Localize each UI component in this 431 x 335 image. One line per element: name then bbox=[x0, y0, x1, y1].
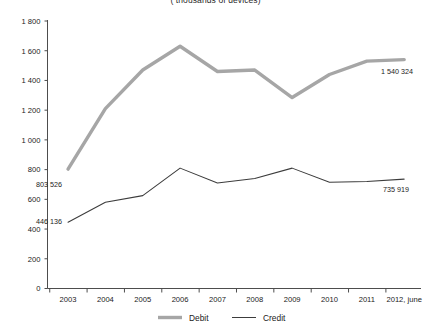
x-tick-label: 2007 bbox=[209, 295, 226, 304]
y-tick-label: 200 bbox=[28, 255, 41, 264]
x-tick-label: 2012, june bbox=[386, 295, 421, 304]
x-tick-label: 2006 bbox=[172, 295, 189, 304]
x-tick-label: 2003 bbox=[60, 295, 77, 304]
x-tick-label: 2011 bbox=[359, 295, 375, 304]
chart-container: ( thousands of devices) 02004006008001 0… bbox=[0, 0, 431, 335]
y-tick-label: 1 800 bbox=[21, 17, 40, 26]
x-tick-label: 2008 bbox=[246, 295, 263, 304]
annotation-debit-end-value: 1 540 324 bbox=[381, 67, 413, 76]
chart-legend: Debit Credit bbox=[158, 313, 286, 323]
y-tick-label: 400 bbox=[28, 225, 41, 234]
y-tick-label: 0 bbox=[36, 284, 40, 293]
line-chart-plot: 02004006008001 0001 2001 4001 6001 800 2… bbox=[0, 0, 431, 335]
y-tick-label: 1 200 bbox=[21, 106, 40, 115]
y-tick-label: 800 bbox=[28, 165, 41, 174]
y-axis-tick-labels: 02004006008001 0001 2001 4001 6001 800 bbox=[21, 17, 40, 294]
x-tick-label: 2004 bbox=[97, 295, 114, 304]
annotation-credit-end-value: 735 919 bbox=[383, 185, 409, 194]
series-line-debit bbox=[68, 46, 404, 169]
annotation-credit-start-value: 446 136 bbox=[36, 217, 62, 226]
x-tick-label: 2005 bbox=[134, 295, 151, 304]
annotation-debit-start-value: 803 526 bbox=[36, 180, 62, 189]
x-axis-tick-labels: 2003200420052006200720082009201020112012… bbox=[60, 295, 422, 304]
y-tick-label: 1 000 bbox=[21, 136, 40, 145]
x-axis-ticks bbox=[50, 289, 386, 293]
x-tick-label: 2010 bbox=[321, 295, 338, 304]
y-tick-label: 1 600 bbox=[21, 47, 40, 56]
legend-label-credit: Credit bbox=[263, 313, 286, 323]
x-tick-label: 2009 bbox=[284, 295, 301, 304]
series-line-credit bbox=[68, 168, 404, 222]
legend-label-debit: Debit bbox=[189, 313, 209, 323]
y-tick-label: 1 400 bbox=[21, 76, 40, 85]
y-tick-label: 600 bbox=[28, 195, 41, 204]
